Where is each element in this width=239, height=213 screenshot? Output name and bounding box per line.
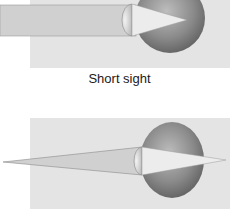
parallel-light-beam xyxy=(0,5,136,36)
short-sight-caption: Short sight xyxy=(0,71,239,86)
eye-diagrams xyxy=(0,0,239,213)
normal-vision-diagram xyxy=(3,122,226,198)
diverging-light-cone xyxy=(3,147,142,175)
short-sight-diagram xyxy=(0,0,205,53)
